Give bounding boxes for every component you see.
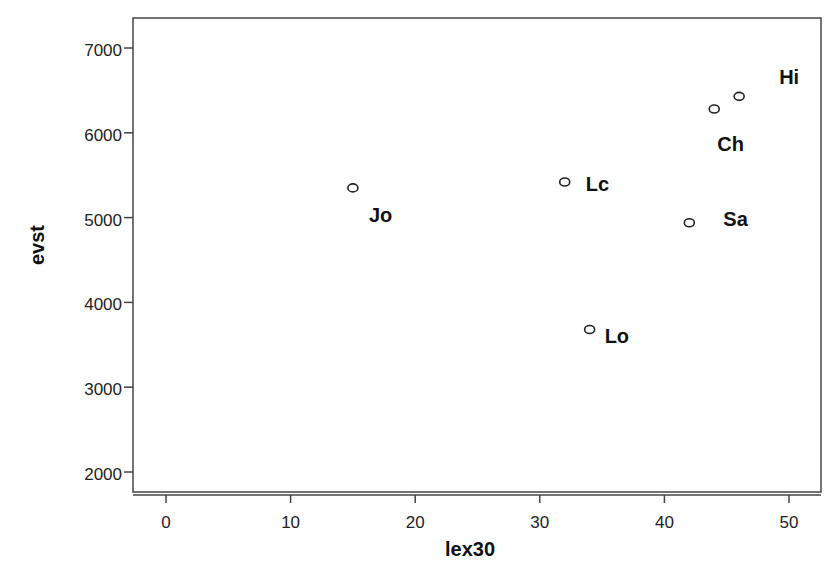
data-point-label: Ch [717, 133, 744, 155]
y-tick-label: 2000 [84, 465, 122, 484]
plot-frame [133, 18, 821, 492]
x-axis-title: lex30 [445, 538, 495, 560]
data-point-label: Lc [586, 173, 609, 195]
x-tick-label: 20 [406, 513, 425, 532]
y-tick-label: 5000 [84, 211, 122, 230]
x-tick-label: 10 [281, 513, 300, 532]
y-tick-label: 7000 [84, 41, 122, 60]
data-points: JoLcLoSaChHi [348, 66, 799, 346]
data-point-label: Hi [779, 66, 799, 88]
x-tick-label: 50 [780, 513, 799, 532]
data-point [585, 326, 595, 334]
data-point-label: Lo [605, 325, 629, 347]
x-axis: 01020304050 [161, 495, 798, 532]
data-point [709, 105, 719, 113]
scatter-chart: 200030004000500060007000 01020304050 JoL… [0, 0, 835, 575]
data-point [734, 92, 744, 100]
y-tick-label: 3000 [84, 380, 122, 399]
y-tick-label: 6000 [84, 126, 122, 145]
x-tick-label: 30 [530, 513, 549, 532]
data-point-label: Sa [723, 208, 748, 230]
data-point-label: Jo [369, 204, 392, 226]
data-point [560, 178, 570, 186]
y-axis: 200030004000500060007000 [84, 41, 133, 484]
x-tick-label: 0 [161, 513, 170, 532]
data-point [348, 184, 358, 192]
data-point [684, 219, 694, 227]
y-axis-title: evst [26, 225, 48, 265]
y-tick-label: 4000 [84, 295, 122, 314]
x-tick-label: 40 [655, 513, 674, 532]
